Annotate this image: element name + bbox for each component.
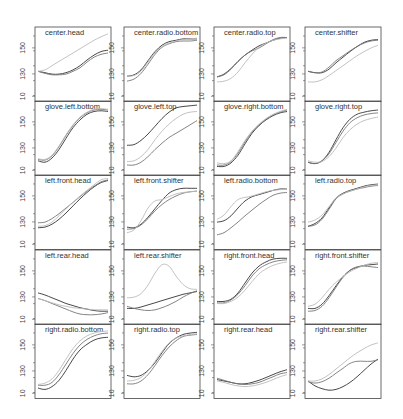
panel-title: left.rear.shifter [134,251,182,260]
panel: right.radio.top10130150 [108,324,200,399]
y-tick-label: 130 [198,142,205,154]
panel: left.front.shifter10130150 [108,175,200,250]
y-tick-label: 130 [289,291,296,303]
y-tick-label: 10 [108,92,115,100]
panel: left.rear.head10130150 [19,250,111,325]
y-tick-label: 10 [19,389,26,397]
panel: center.radio.bottom10130150 [108,27,200,102]
y-tick-label: 10 [289,166,296,174]
panel-title: left.front.head [45,176,91,185]
panel-frame [35,101,111,176]
y-tick-label: 10 [108,240,115,248]
y-tick-label: 150 [19,116,26,128]
panel: glove.right.bottom10130150 [198,101,290,176]
y-tick-label: 150 [198,190,205,202]
series-line-light [308,45,378,82]
trellis-line-chart: center.head10130150center.radio.bottom10… [0,0,403,419]
series-line-medium [308,266,378,311]
y-tick-label: 130 [198,291,205,303]
panel-frame [35,27,111,102]
panel-title: glove.right.bottom [224,102,284,111]
series-line-light [308,343,378,381]
panel-title: center.shifter [315,28,358,37]
panel: glove.right.top10130150 [289,101,381,176]
y-tick-label: 150 [289,339,296,351]
series-line-light [217,262,287,304]
y-tick-label: 150 [198,339,205,351]
panel-title: glove.right.top [315,102,362,111]
series-line-light [308,185,378,222]
series-line-light [38,178,108,226]
panel-title: center.head [45,28,84,37]
panel: glove.left.top10130150 [108,101,200,176]
series-line-medium [308,40,378,72]
y-tick-label: 150 [198,265,205,277]
y-tick-label: 150 [108,190,115,202]
series-line-dark [217,38,287,77]
series-line-light [217,375,287,387]
y-tick-label: 10 [19,92,26,100]
y-tick-label: 130 [289,68,296,80]
panel-frame [124,27,200,102]
y-tick-label: 10 [198,315,205,323]
series-line-medium [38,53,108,75]
y-tick-label: 130 [289,216,296,228]
y-tick-label: 150 [19,190,26,202]
series-line-light [217,109,287,163]
y-tick-label: 150 [108,339,115,351]
y-tick-label: 130 [19,291,26,303]
series-line-light [217,38,287,82]
y-tick-label: 150 [198,116,205,128]
y-tick-label: 10 [19,166,26,174]
panel-title: left.radio.top [315,176,356,185]
y-tick-label: 130 [198,365,205,377]
y-tick-label: 150 [108,265,115,277]
series-line-light [38,34,108,71]
y-tick-label: 150 [108,42,115,54]
panel-frame [305,27,381,102]
panel: right.front.shifter10130150 [289,250,381,325]
y-tick-label: 150 [289,42,296,54]
series-line-medium [38,109,108,160]
series-line-dark [217,258,287,301]
y-tick-label: 130 [108,142,115,154]
series-line-dark [127,292,197,309]
series-line-light [38,299,108,310]
y-tick-label: 130 [19,142,26,154]
series-line-dark [127,332,197,377]
panel: glove.left.bottom10130150 [19,101,111,176]
y-tick-label: 150 [19,339,26,351]
panel-title: right.rear.shifter [315,325,368,334]
panel-title: left.front.shifter [134,176,184,185]
panel-title: left.rear.head [45,251,89,260]
series-line-light [127,334,197,381]
panel-frame [35,175,111,250]
y-tick-label: 150 [289,190,296,202]
y-tick-label: 10 [289,389,296,397]
y-tick-label: 150 [289,116,296,128]
y-tick-label: 130 [198,68,205,80]
y-tick-label: 150 [19,265,26,277]
y-tick-label: 130 [19,365,26,377]
series-line-medium [308,186,378,227]
series-line-dark [127,105,197,145]
panel-title: right.rear.head [224,325,272,334]
y-tick-label: 130 [19,216,26,228]
panel: center.shifter10130150 [289,27,381,102]
panel-frame [35,324,111,399]
y-tick-label: 10 [19,240,26,248]
panel-title: center.radio.top [224,28,276,37]
series-line-dark [308,184,378,226]
y-tick-label: 10 [289,315,296,323]
panel: right.rear.shifter10130150 [289,324,381,399]
panel-title: center.radio.bottom [134,28,198,37]
panel: left.rear.shifter10130150 [108,250,200,325]
y-tick-label: 150 [289,265,296,277]
series-line-dark [127,39,197,76]
series-line-light [217,189,287,219]
y-tick-label: 10 [198,240,205,248]
series-line-medium [38,299,108,315]
panel-title: glove.left.top [134,102,177,111]
series-line-dark [127,188,197,228]
series-line-light [127,191,197,233]
